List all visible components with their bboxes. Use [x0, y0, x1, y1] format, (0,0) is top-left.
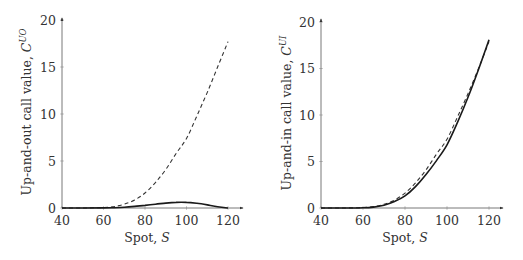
solid-series	[321, 40, 489, 208]
x-tick-label: 100	[175, 213, 199, 228]
chart-up-and-in: 05101520 406080100120 Spot, S Up-and-in …	[278, 15, 503, 246]
chart-canvas: 05101520 406080100120 Spot, S Up-and-out…	[0, 0, 523, 260]
x-tick-label: 80	[397, 213, 413, 228]
chart-up-and-out: 05101520 406080100120 Spot, S Up-and-out…	[18, 13, 243, 246]
x-tick-label: 120	[216, 213, 240, 228]
y-tick-label: 5	[48, 154, 56, 169]
y-axis-label-superscript: UO	[18, 28, 28, 42]
y-tick-label: 15	[299, 61, 315, 76]
x-tick-label: 60	[355, 213, 371, 228]
x-tick-label: 80	[137, 213, 153, 228]
y-axis-label: Up-and-out call value, CUO	[18, 28, 34, 195]
x-axis-label-symbol: S	[161, 230, 170, 245]
x-axis-label-symbol: S	[419, 230, 428, 245]
x-axis-label: Spot, S	[124, 230, 170, 245]
x-tick-label: 60	[96, 213, 112, 228]
x-axis-label-text: Spot,	[382, 230, 419, 245]
y-tick-label: 20	[299, 15, 315, 30]
dashed-series	[321, 42, 489, 209]
y-axis-label-symbol: C	[279, 46, 294, 56]
x-tick-label: 40	[54, 213, 70, 228]
x-axis-ticks: 406080100120	[54, 206, 240, 228]
x-axis-label: Spot, S	[382, 230, 428, 245]
y-axis-ticks: 05101520	[40, 13, 64, 216]
y-tick-label: 5	[307, 154, 315, 169]
x-tick-label: 100	[435, 213, 459, 228]
x-tick-label: 120	[477, 213, 501, 228]
y-tick-label: 10	[40, 107, 56, 122]
y-axis-label: Up-and-in call value, CUI	[278, 35, 294, 191]
y-axis-label-text: Up-and-out call value,	[19, 52, 34, 195]
x-tick-label: 40	[313, 213, 329, 228]
x-axis-ticks: 406080100120	[313, 206, 501, 228]
dashed-series	[62, 42, 228, 208]
y-axis-label-text: Up-and-in call value,	[279, 56, 294, 191]
y-tick-label: 20	[40, 13, 56, 28]
y-tick-label: 15	[40, 60, 56, 75]
y-axis-ticks: 05101520	[299, 15, 323, 216]
x-axis-label-text: Spot,	[124, 230, 161, 245]
y-axis-label-superscript: UI	[278, 35, 288, 46]
y-tick-label: 10	[299, 108, 315, 123]
y-axis-label-symbol: C	[19, 42, 34, 52]
